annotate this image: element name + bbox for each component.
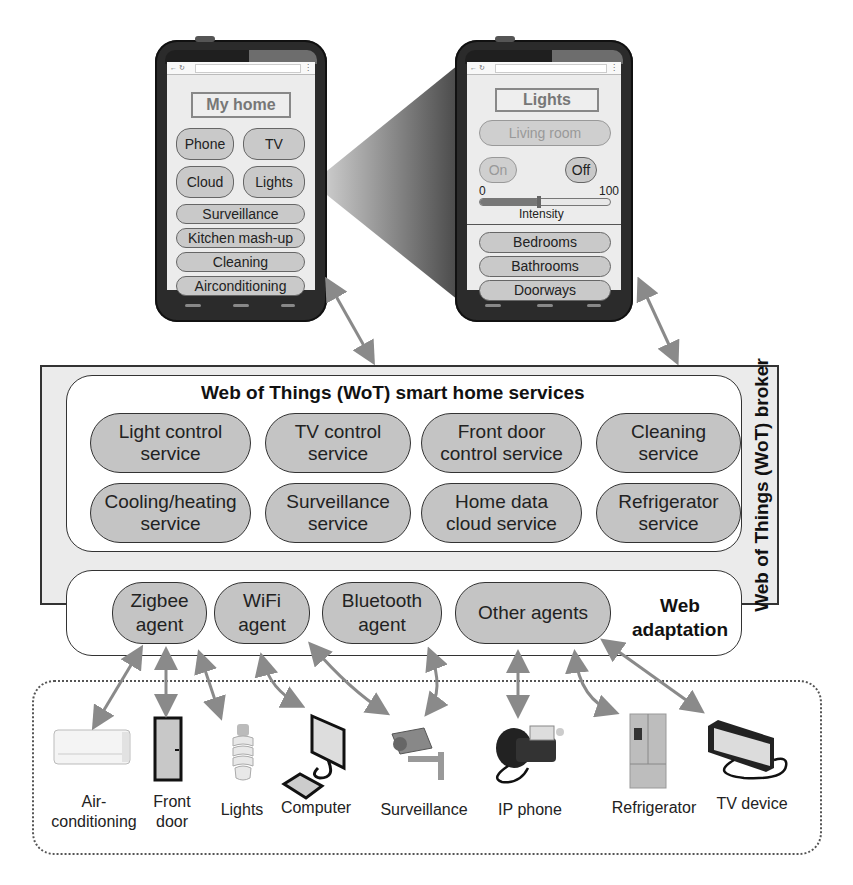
device-label-ip-phone: IP phone — [490, 800, 570, 820]
front-door-control-service[interactable]: Front doorcontrol service — [421, 413, 582, 473]
light-bulb-icon[interactable] — [228, 722, 258, 786]
device-label-lights: Lights — [212, 800, 272, 820]
bluetooth-agent[interactable]: Bluetoothagent — [322, 582, 442, 644]
on-button[interactable]: On — [479, 157, 517, 183]
living-room-button[interactable]: Living room — [479, 120, 611, 146]
airconditioning-button[interactable]: Airconditioning — [176, 276, 305, 296]
phone-screen: ← ↻ ⋮ My home Phone TV Cloud Lights Surv… — [167, 62, 315, 290]
slider-label: Intensity — [519, 207, 564, 221]
off-button[interactable]: Off — [565, 157, 597, 183]
cleaning-service[interactable]: Cleaningservice — [596, 413, 741, 473]
browser-address-bar[interactable]: ← ↻ ⋮ — [467, 62, 621, 75]
light-control-service[interactable]: Light controlservice — [90, 413, 251, 473]
phone-lights: ← ↻ ⋮ Lights Living room On Off 0 100 In… — [455, 40, 633, 322]
page-title: My home — [191, 92, 291, 118]
home-data-cloud-service[interactable]: Home datacloud service — [421, 483, 582, 543]
intensity-slider[interactable] — [479, 198, 611, 206]
web-adaptation-label: Web adaptation — [620, 594, 740, 642]
surveillance-service[interactable]: Surveillanceservice — [265, 483, 411, 543]
ip-phone-icon[interactable] — [490, 722, 570, 782]
device-label-air-conditioning: Air-conditioning — [44, 792, 144, 832]
phone-button[interactable]: Phone — [176, 128, 234, 160]
computer-icon[interactable] — [280, 712, 350, 792]
surveillance-button[interactable]: Surveillance — [176, 204, 305, 224]
browser-menu-icon[interactable]: ⋮ — [610, 63, 618, 72]
device-label-surveillance: Surveillance — [374, 800, 474, 820]
browser-nav-icons[interactable]: ← ↻ — [170, 64, 185, 72]
page-title: Lights — [495, 88, 599, 112]
tv-button[interactable]: TV — [243, 128, 305, 160]
phone-my-home: ← ↻ ⋮ My home Phone TV Cloud Lights Surv… — [155, 40, 327, 322]
refrigerator-icon[interactable] — [628, 712, 668, 790]
browser-menu-icon[interactable]: ⋮ — [304, 63, 312, 72]
kitchen-mashup-button[interactable]: Kitchen mash-up — [176, 228, 305, 248]
phone-screen: ← ↻ ⋮ Lights Living room On Off 0 100 In… — [467, 62, 621, 290]
broker-label: Web of Things (WoT) broker — [751, 358, 773, 612]
tv-control-service[interactable]: TV controlservice — [265, 413, 411, 473]
other-agents[interactable]: Other agents — [455, 582, 611, 644]
divider — [467, 224, 621, 225]
browser-nav-icons[interactable]: ← ↻ — [470, 64, 485, 72]
slider-max-label: 100 — [599, 184, 619, 198]
url-field[interactable] — [195, 64, 301, 73]
device-label-tv-device: TV device — [702, 794, 802, 814]
slider-fill — [480, 199, 539, 205]
cooling-heating-service[interactable]: Cooling/heatingservice — [90, 483, 251, 543]
wifi-agent[interactable]: WiFiagent — [214, 582, 310, 644]
tv-icon[interactable] — [704, 716, 794, 780]
cleaning-button[interactable]: Cleaning — [176, 252, 305, 272]
lights-button[interactable]: Lights — [243, 166, 305, 198]
bedrooms-button[interactable]: Bedrooms — [479, 232, 611, 253]
security-camera-icon[interactable] — [388, 724, 448, 784]
phone-speaker — [195, 36, 215, 42]
device-label-refrigerator: Refrigerator — [604, 798, 704, 818]
phone-nav-buttons — [155, 296, 327, 316]
refrigerator-service[interactable]: Refrigeratorservice — [596, 483, 741, 543]
device-label-front-door: Frontdoor — [142, 792, 202, 832]
phone-nav-buttons — [455, 296, 633, 316]
browser-address-bar[interactable]: ← ↻ ⋮ — [167, 62, 315, 75]
slider-min-label: 0 — [479, 184, 486, 198]
url-field[interactable] — [495, 64, 607, 73]
phone-speaker — [495, 36, 515, 42]
bathrooms-button[interactable]: Bathrooms — [479, 256, 611, 277]
door-icon[interactable] — [153, 716, 185, 784]
services-title: Web of Things (WoT) smart home services — [201, 382, 585, 404]
device-label-computer: Computer — [276, 798, 356, 818]
air-conditioner-icon[interactable] — [52, 728, 134, 770]
cloud-button[interactable]: Cloud — [176, 166, 234, 198]
zigbee-agent[interactable]: Zigbeeagent — [112, 582, 207, 644]
